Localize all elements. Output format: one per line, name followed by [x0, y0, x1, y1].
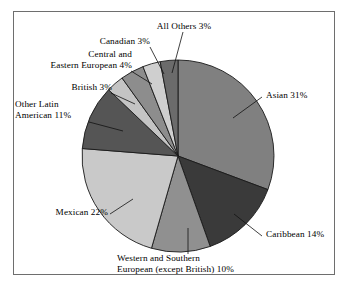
pie-chart — [0, 0, 348, 294]
label-central-eastern-european-line1: Central and — [20, 49, 132, 59]
label-other-latin-american-line2: American 11% — [15, 110, 105, 120]
label-canadian: Canadian 3% — [78, 36, 150, 46]
label-mexican: Mexican 22% — [28, 207, 108, 217]
label-caribbean: Caribbean 14% — [266, 229, 338, 239]
label-central-eastern-european-line2: Eastern European 4% — [20, 60, 132, 70]
cropped-caption — [0, 285, 348, 294]
label-british: British 3% — [40, 82, 112, 92]
figure-root: All Others 3% Canadian 3% Central and Ea… — [0, 0, 348, 294]
label-western-southern-european-line1: Western and Southern — [117, 253, 307, 263]
label-asian: Asian 31% — [266, 90, 336, 100]
label-all-others: All Others 3% — [140, 21, 228, 31]
label-other-latin-american-line1: Other Latin — [15, 99, 105, 109]
label-western-southern-european-line2: European (except British) 10% — [117, 264, 317, 274]
